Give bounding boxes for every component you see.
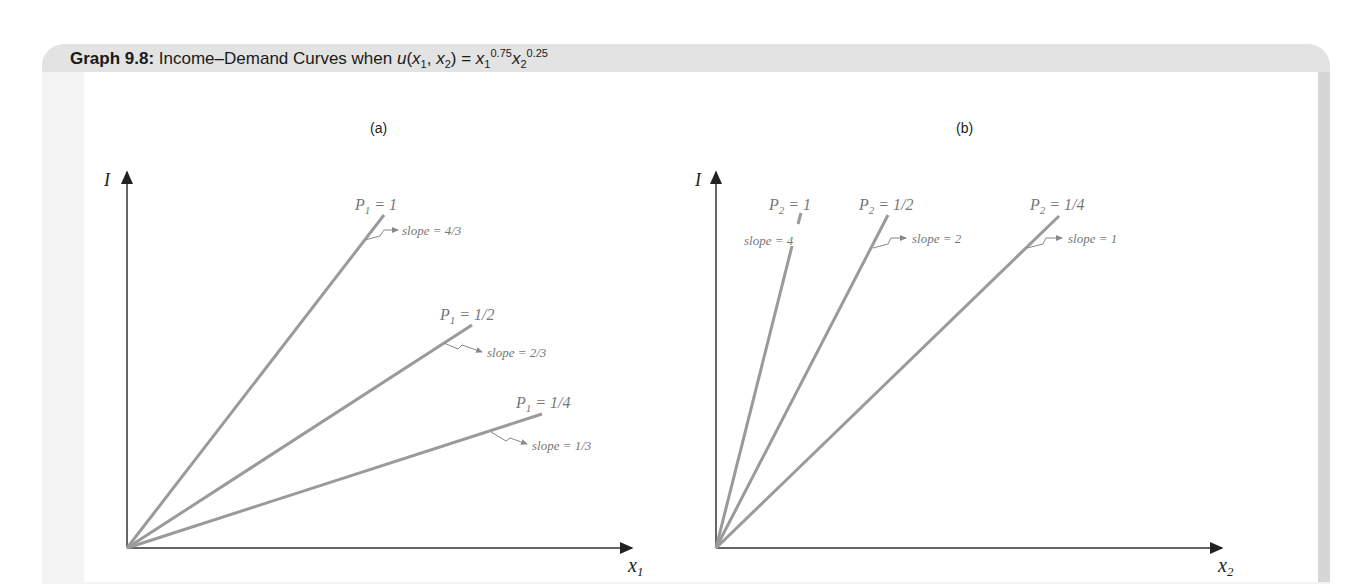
label-p1-quarter: P1= 1/4 — [515, 394, 571, 414]
slope-label-p1-half: slope = 2/3 — [487, 345, 547, 360]
label-p2-1: P2= 1 — [768, 196, 811, 216]
slope-label-p2-1: slope = 4 — [744, 233, 794, 248]
label-p1-half: P1= 1/2 — [439, 306, 495, 326]
leader-p2-half — [873, 238, 906, 248]
x-axis-a-label: x1 — [627, 554, 643, 579]
curve-p1-half — [127, 325, 472, 548]
leader-p1-half — [444, 343, 482, 352]
y-axis-b-label: I — [694, 170, 702, 190]
x-axis-b-label: x2 — [1217, 554, 1234, 579]
curve-p2-1 — [716, 246, 792, 548]
panel-b-label: (b) — [956, 120, 973, 136]
curve-p1-1 — [127, 215, 384, 548]
panel-a: (a) I x1 P1= 1 slope = 4/3 P1= 1/2 slope… — [103, 120, 643, 579]
slope-label-p1-quarter: slope = 1/3 — [532, 438, 592, 453]
label-p2-quarter: P2= 1/4 — [1029, 196, 1085, 216]
panel-a-label: (a) — [370, 120, 387, 136]
label-p2-half: P2= 1/2 — [858, 196, 914, 216]
curve-p2-quarter — [716, 216, 1059, 548]
curve-p2-1-top — [798, 213, 801, 224]
curve-p1-quarter — [127, 414, 542, 548]
slope-label-p2-quarter: slope = 1 — [1068, 231, 1117, 246]
slope-label-p2-half: slope = 2 — [912, 231, 962, 246]
leader-p1-quarter — [491, 432, 527, 444]
slope-label-p1-1: slope = 4/3 — [402, 223, 462, 238]
curve-p2-half — [716, 215, 888, 548]
y-axis-a-label: I — [103, 170, 111, 190]
panel-b: (b) I x2 P2= 1 slope = 4 P2= 1/2 slope =… — [694, 120, 1234, 579]
label-p1-1: P1= 1 — [354, 196, 397, 216]
